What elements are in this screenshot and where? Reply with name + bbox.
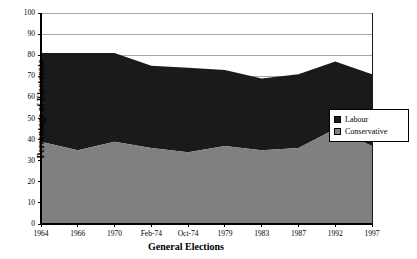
y-tick-label: 90 xyxy=(9,30,35,38)
y-tick-label: 70 xyxy=(9,72,35,80)
y-axis-title: Percentage of Electorate xyxy=(36,24,46,194)
labour-swatch xyxy=(334,116,341,123)
y-tick-label: 20 xyxy=(9,178,35,186)
y-tick-label: 100 xyxy=(9,9,35,17)
y-tick-label: 60 xyxy=(9,93,35,101)
legend-item-label: Conservative xyxy=(345,127,387,136)
y-tick-label: 30 xyxy=(9,157,35,165)
chart-legend: Labour Conservative xyxy=(329,109,409,142)
legend-item-conservative[interactable]: Conservative xyxy=(334,126,404,137)
x-tick-label: 1997 xyxy=(350,229,394,238)
y-tick-label: 10 xyxy=(9,199,35,207)
x-axis-title: General Elections xyxy=(0,241,372,252)
chart-container: Percentage of Electorate 010203040506070… xyxy=(0,0,417,259)
conservative-swatch xyxy=(334,128,341,135)
y-tick-label: 50 xyxy=(9,115,35,123)
y-tick-label: 0 xyxy=(9,220,35,228)
y-tick-label: 80 xyxy=(9,51,35,59)
y-tick-label: 40 xyxy=(9,136,35,144)
legend-item-labour[interactable]: Labour xyxy=(334,114,404,125)
legend-item-label: Labour xyxy=(345,115,368,124)
